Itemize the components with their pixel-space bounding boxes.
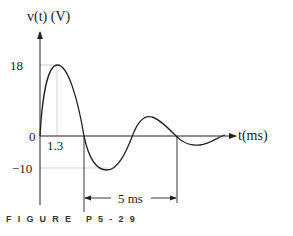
y-axis-label: v(t) (V) bbox=[27, 10, 70, 23]
tick-neg10: −10 bbox=[12, 162, 32, 175]
waveform-plot bbox=[0, 0, 293, 236]
x-axis-label: t(ms) bbox=[238, 129, 268, 142]
tick-0: 0 bbox=[29, 130, 36, 143]
tick-1-3: 1.3 bbox=[47, 139, 63, 152]
figure-caption: FIGURE P5-29 bbox=[6, 214, 141, 224]
waveform-curve bbox=[40, 65, 225, 170]
interval-label: 5 ms bbox=[118, 192, 143, 205]
tick-18: 18 bbox=[10, 59, 23, 72]
